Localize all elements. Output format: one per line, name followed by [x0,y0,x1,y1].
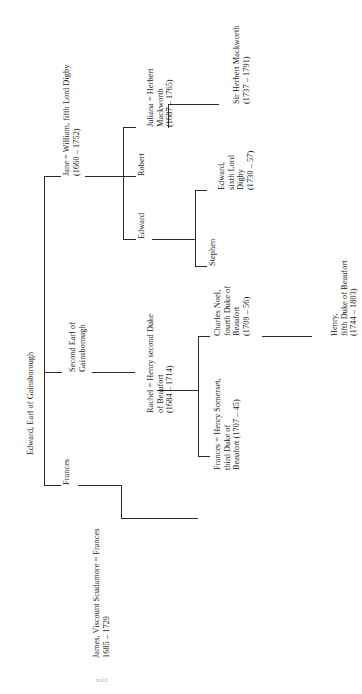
connector-jane-child-edward [123,239,136,240]
connector-juliana-to-son [168,104,219,105]
connector-second-earl-to-rachel [92,372,135,373]
connector-scudamore-drop [121,485,122,519]
connector-jane-children-spine [123,127,124,239]
connector-frances-to-scudamore [78,485,121,486]
connector-edward-children-spine [195,190,196,266]
connector-rachel-children-spine [198,336,199,456]
connector-edward-to-children [152,239,195,240]
connector-jane-child-juliana [123,127,136,128]
connector-edward-child-stephen [195,266,207,267]
connector-charles-to-henry-fifth [262,336,312,337]
connector-jane-to-children [85,176,123,177]
node-edward-earl-of-gainsborough: Edward, Earl of Gainsborough [26,352,36,455]
folio-page-number: xiii [96,676,109,683]
connector-root-to-frances [44,485,61,486]
connector-scudamore-to-daughter [121,518,198,519]
connector-rachel-child-charles [198,336,210,337]
connector-rachel-to-children [157,390,198,391]
connector-root-to-jane [44,176,61,177]
connector-edward-child-sixth [195,190,207,191]
connector-jane-child-robert [123,176,136,177]
family-tree-diagram: Edward, Earl of Gainsborough Jane = Will… [0,0,362,694]
connector-root-spine [44,176,45,485]
connector-juliana-drop [168,104,169,128]
connector-rachel-child-henry-third [198,456,210,457]
connector-root-stub [44,372,62,373]
